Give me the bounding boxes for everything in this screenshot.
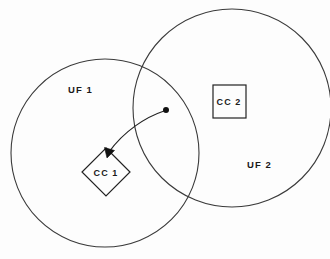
venn-diagram: UF 1 UF 2 CC 2 CC 1 bbox=[0, 0, 330, 259]
diagram-canvas: UF 1 UF 2 CC 2 CC 1 bbox=[0, 0, 330, 259]
connector-curve bbox=[109, 111, 164, 152]
region-uf2-circle bbox=[133, 9, 330, 207]
region-uf2-label: UF 2 bbox=[247, 159, 272, 170]
region-uf1-label: UF 1 bbox=[68, 84, 93, 95]
region-uf1-circle bbox=[11, 59, 199, 247]
node-cc2-label: CC 2 bbox=[217, 97, 242, 107]
connector-source-dot bbox=[163, 107, 169, 113]
node-cc1-label: CC 1 bbox=[94, 168, 119, 178]
connector-arrowhead-icon bbox=[105, 148, 115, 159]
